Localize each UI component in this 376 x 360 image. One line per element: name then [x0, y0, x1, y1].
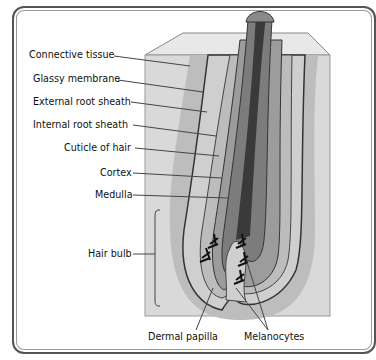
label-external-root-sheath: External root sheath: [33, 96, 131, 108]
label-glassy-membrane: Glassy membrane: [33, 73, 120, 85]
dermal-papilla-shape: [226, 241, 246, 302]
label-dermal-papilla: Dermal papilla: [148, 331, 218, 343]
label-internal-root-sheath: Internal root sheath: [33, 119, 128, 131]
label-connective-tissue: Connective tissue: [29, 49, 114, 61]
label-cortex: Cortex: [100, 167, 132, 179]
label-melanocytes: Melanocytes: [244, 331, 304, 343]
label-hair-bulb: Hair bulb: [88, 248, 132, 260]
label-cuticle-of-hair: Cuticle of hair: [64, 142, 131, 154]
label-medulla: Medulla: [95, 189, 133, 201]
